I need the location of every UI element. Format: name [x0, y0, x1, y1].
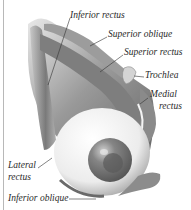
- label-superior-rectus: Superior rectus: [124, 47, 183, 58]
- label-lateral-rectus-line2: rectus: [8, 172, 31, 183]
- label-medial-rectus-line2: rectus: [159, 101, 182, 112]
- label-inferior-rectus: Inferior rectus: [70, 10, 125, 21]
- label-superior-oblique: Superior oblique: [108, 29, 172, 40]
- label-trochlea: Trochlea: [145, 70, 178, 81]
- label-medial-rectus-line1: Medial: [150, 89, 177, 100]
- label-inferior-oblique: Inferior oblique: [8, 193, 68, 204]
- label-lateral-rectus-line1: Lateral: [8, 160, 36, 171]
- pupil: [103, 153, 123, 173]
